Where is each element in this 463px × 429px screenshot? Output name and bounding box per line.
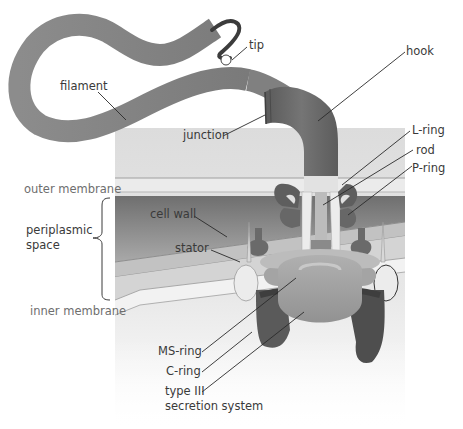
label-stator: stator [175, 241, 209, 255]
label-tip: tip [249, 38, 264, 52]
label-inner-membrane: inner membrane [30, 304, 126, 318]
flagellum-diagram: tip hook filament junction L-ring rod P-… [0, 0, 463, 429]
label-outer-membrane: outer membrane [24, 182, 121, 196]
label-cell-wall: cell wall [150, 207, 196, 221]
label-junction: junction [182, 128, 229, 142]
label-filament: filament [60, 79, 108, 93]
periplasmic-brace [93, 198, 110, 300]
label-c-ring: C-ring [166, 364, 201, 378]
label-secretion-system: secretion system [165, 399, 263, 413]
label-space: space [26, 238, 60, 252]
label-hook: hook [406, 44, 434, 58]
label-rod: rod [416, 143, 435, 157]
label-p-ring: P-ring [412, 161, 445, 175]
tip-cap [221, 55, 231, 65]
rod [302, 176, 340, 260]
label-ms-ring: MS-ring [158, 344, 202, 358]
label-type-iii: type III [165, 384, 205, 398]
label-l-ring: L-ring [412, 123, 445, 137]
label-periplasmic: periplasmic [26, 223, 93, 237]
